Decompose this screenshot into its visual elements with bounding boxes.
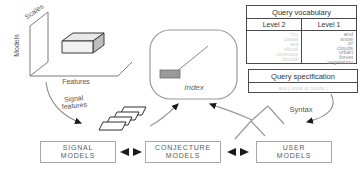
data-cube (62, 33, 104, 53)
conjecture-models-line2: MODELS (166, 152, 200, 161)
query-vocabulary-table: Query vocabulary Level 2 Level 1 hcv coa… (246, 5, 357, 64)
signal-conjecture-arrows (120, 148, 142, 156)
diagram-canvas: Models Scales Features Signal features I… (0, 0, 360, 176)
query-vocabulary-header: Level 2 Level 1 (247, 19, 356, 31)
user-models-line2: MODELS (277, 152, 311, 161)
conjecture-models-line1: CONJECTURE (155, 144, 211, 153)
feature-cards-icon (99, 107, 146, 130)
tree-to-index-arrow (210, 104, 252, 120)
level1-terms: and snow or clouds urban forest vegetati… (302, 31, 356, 64)
level1-column-header: Level 1 (302, 19, 356, 30)
query-specification-box: Query specification and ( snow or clouds… (248, 69, 358, 93)
syntax-label: Syntax (284, 106, 318, 114)
signal-models-line1: SIGNAL (63, 144, 93, 153)
axis-label-features: Features (55, 78, 97, 85)
user-models-line1: USER (283, 144, 306, 153)
user-models-box: USER MODELS (256, 141, 332, 163)
cards-to-index-arrow (150, 104, 178, 126)
query-vocabulary-body: hcv coastal arid alluvial continuous bim… (247, 31, 356, 64)
signal-models-box: SIGNAL MODELS (40, 141, 116, 163)
axis-label-models: Models (13, 26, 20, 66)
index-chip-icon (160, 70, 180, 78)
query-vocabulary-title: Query vocabulary (247, 6, 356, 19)
index-label: Index (172, 84, 216, 92)
query-specification-title: Query specification (249, 70, 357, 83)
level2-terms: hcv coastal arid alluvial continuous bim… (247, 31, 302, 64)
level2-column-header: Level 2 (247, 19, 302, 30)
query-specification-content: and ( snow or clouds ) (249, 83, 357, 93)
conjecture-models-box: CONJECTURE MODELS (145, 141, 221, 163)
parse-tree-icon (235, 106, 284, 139)
signal-models-line2: MODELS (61, 152, 95, 161)
conjecture-user-arrows (227, 148, 249, 156)
